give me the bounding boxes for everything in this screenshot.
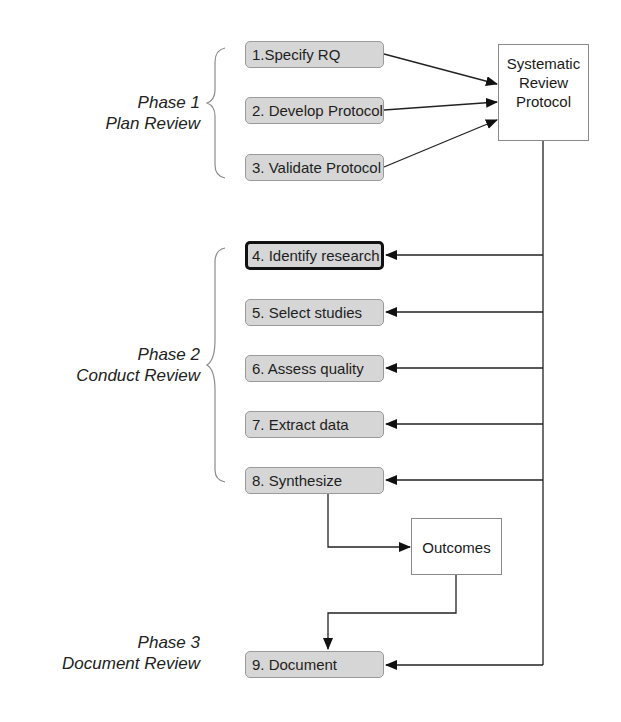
step-synthesize: 8. Synthesize — [245, 467, 384, 494]
protocol-line-1: Systematic — [499, 54, 588, 73]
step-extract-data: 7. Extract data — [245, 411, 384, 438]
step-develop-protocol: 2. Develop Protocol — [245, 97, 384, 124]
phase1-subtitle: Plan Review — [70, 113, 200, 134]
phase2-subtitle: Conduct Review — [40, 365, 200, 386]
outcomes-document: Outcomes — [411, 518, 502, 575]
step-document: 9. Document — [245, 651, 384, 678]
phase2-label: Phase 2 Conduct Review — [40, 344, 200, 386]
systematic-review-protocol-document: Systematic Review Protocol — [498, 44, 589, 141]
step-specify-rq: 1.Specify RQ — [245, 41, 384, 68]
protocol-line-3: Protocol — [499, 92, 588, 111]
step-identify-research: 4. Identify research — [245, 241, 384, 270]
phase2-brace — [207, 248, 225, 482]
outcomes-line-1: Outcomes — [412, 538, 501, 557]
step-validate-protocol: 3. Validate Protocol — [245, 154, 384, 181]
phase1-brace — [207, 48, 225, 178]
phase1-title: Phase 1 — [70, 92, 200, 113]
phase3-title: Phase 3 — [30, 632, 200, 653]
phase3-subtitle: Document Review — [30, 653, 200, 674]
phase2-title: Phase 2 — [40, 344, 200, 365]
phase1-label: Phase 1 Plan Review — [70, 92, 200, 134]
phase3-label: Phase 3 Document Review — [30, 632, 200, 674]
protocol-line-2: Review — [499, 73, 588, 92]
step-assess-quality: 6. Assess quality — [245, 355, 384, 382]
step-select-studies: 5. Select studies — [245, 299, 384, 326]
